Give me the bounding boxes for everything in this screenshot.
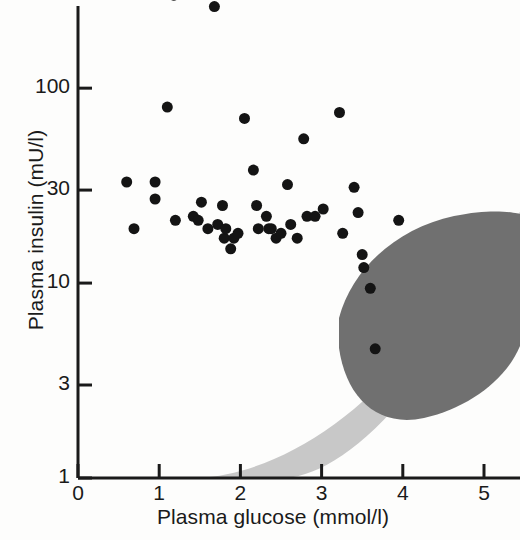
data-point bbox=[217, 200, 228, 211]
data-point bbox=[370, 343, 381, 354]
x-tick-label: 0 bbox=[58, 481, 98, 505]
data-point bbox=[353, 207, 364, 218]
data-point bbox=[129, 223, 140, 234]
x-tick-label: 4 bbox=[383, 481, 423, 505]
data-point bbox=[365, 283, 376, 294]
data-point bbox=[233, 228, 244, 239]
data-point bbox=[220, 223, 231, 234]
data-point bbox=[285, 219, 296, 230]
data-point bbox=[251, 200, 262, 211]
data-point bbox=[150, 177, 161, 188]
data-point bbox=[261, 211, 272, 222]
data-point bbox=[196, 197, 207, 208]
data-point bbox=[357, 249, 368, 260]
scatter-chart-figure: 131030100300 012345 Plasma insulin (mU/l… bbox=[0, 0, 520, 540]
x-tick-label: 2 bbox=[220, 481, 260, 505]
data-point bbox=[276, 228, 287, 239]
data-point bbox=[266, 223, 277, 234]
hyperinsulinaemia-zone bbox=[339, 211, 520, 420]
data-point bbox=[393, 215, 404, 226]
data-point bbox=[239, 113, 250, 124]
y-axis-label: Plasma insulin (mU/l) bbox=[24, 90, 48, 370]
data-point bbox=[209, 1, 220, 12]
data-point bbox=[121, 177, 132, 188]
data-point bbox=[358, 262, 369, 273]
data-point bbox=[193, 215, 204, 226]
data-point bbox=[162, 102, 173, 113]
x-tick-label: 3 bbox=[302, 481, 342, 505]
data-point bbox=[282, 179, 293, 190]
x-tick-label: 5 bbox=[464, 481, 504, 505]
data-point bbox=[170, 215, 181, 226]
data-point bbox=[225, 243, 236, 254]
data-point bbox=[150, 194, 161, 205]
x-axis-label: Plasma glucose (mmol/l) bbox=[78, 505, 468, 529]
data-point bbox=[168, 0, 179, 1]
data-point bbox=[292, 233, 303, 244]
y-tick-label: 3 bbox=[10, 371, 70, 395]
data-point bbox=[298, 133, 309, 144]
data-point bbox=[202, 223, 213, 234]
data-point bbox=[337, 228, 348, 239]
data-point bbox=[253, 223, 264, 234]
x-tick-label: 1 bbox=[139, 481, 179, 505]
data-point bbox=[334, 107, 345, 118]
data-point bbox=[349, 182, 360, 193]
y-tick-label: 300 bbox=[10, 0, 70, 5]
data-point bbox=[219, 233, 230, 244]
plot-canvas bbox=[0, 0, 520, 540]
y-axis-ticks bbox=[78, 0, 92, 478]
data-point bbox=[248, 165, 259, 176]
data-point bbox=[318, 204, 329, 215]
